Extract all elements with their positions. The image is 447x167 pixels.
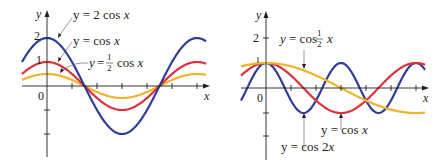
y-ticks [258, 38, 269, 136]
y-tick-2: 2 [253, 31, 259, 45]
label-cosx: y = cos x [73, 33, 120, 48]
svg-text:2: 2 [317, 39, 322, 49]
svg-text:x: x [326, 31, 333, 46]
svg-text:=: = [97, 55, 104, 70]
label-cos2x: y = cos 2x [281, 139, 334, 154]
y-axis-label: y [255, 8, 262, 22]
origin-label: 0 [38, 89, 44, 103]
label-cosx: y = cos x [321, 122, 368, 137]
y-axis-arrow-icon [264, 11, 269, 18]
y-axis-label: y [35, 7, 42, 21]
origin-label: 0 [257, 91, 263, 105]
x-axis-label: x [203, 89, 210, 103]
frac-num: 1 [107, 52, 112, 62]
svg-text:cos x: cos x [117, 55, 144, 70]
frac-den: 2 [107, 63, 112, 73]
right-graph: y x 2 0 y = cos 1 2 x y = cos x y = cos … [241, 8, 429, 160]
x-axis-label: x [422, 91, 429, 105]
y-axis-arrow-icon [45, 10, 50, 17]
cosine-graphs-figure: y x 2 1 0 y = 2 cos x y = cos x y = 1 2 … [0, 0, 447, 167]
y-tick-1: 1 [36, 53, 42, 67]
x-axis-arrow-icon [203, 84, 210, 89]
svg-text:1: 1 [317, 28, 322, 38]
svg-text:y: y [87, 55, 95, 70]
label-half-cosx: y = 1 2 cos x [87, 52, 144, 73]
left-graph: y x 2 1 0 y = 2 cos x y = cos x y = 1 2 … [22, 7, 210, 157]
label-cos-half-x: y = cos 1 2 x [278, 28, 333, 49]
y-tick-2: 2 [34, 29, 40, 43]
label-2cosx: y = 2 cos x [73, 7, 130, 22]
svg-text:y = cos: y = cos [278, 31, 317, 46]
x-axis-arrow-icon [422, 86, 429, 91]
